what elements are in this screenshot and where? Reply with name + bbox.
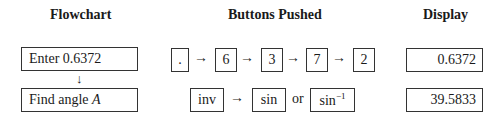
display-value-2: 39.5833 — [406, 88, 483, 112]
arrow-right-icon: → — [240, 50, 254, 66]
key-label: 6 — [223, 52, 230, 68]
key-6: 6 — [215, 48, 237, 72]
key-label: inv — [198, 92, 216, 108]
display-value-1: 0.6372 — [406, 48, 483, 72]
arrow-right-icon: → — [230, 90, 244, 106]
flow-step-label: Find angle A — [29, 92, 101, 108]
key-label: . — [178, 52, 182, 68]
key-arcsin: sin−1 — [310, 88, 355, 112]
key-7: 7 — [306, 48, 328, 72]
flow-step-label: Enter 0.6372 — [29, 51, 101, 67]
arrow-right-icon: → — [286, 50, 300, 66]
connector-or: or — [292, 91, 304, 107]
key-inv: inv — [190, 88, 224, 112]
display-text: 0.6372 — [438, 52, 477, 68]
flow-step-enter: Enter 0.6372 — [21, 47, 138, 71]
key-decimal-point: . — [171, 48, 189, 72]
key-label: 7 — [314, 52, 321, 68]
header-flowchart: Flowchart — [50, 7, 111, 23]
header-buttons-pushed: Buttons Pushed — [228, 7, 322, 23]
key-2: 2 — [353, 48, 375, 72]
key-label: sin−1 — [320, 91, 346, 109]
arrow-right-icon: → — [332, 50, 346, 66]
key-sin: sin — [252, 88, 286, 112]
key-3: 3 — [261, 48, 283, 72]
flow-step-find-angle: Find angle A — [21, 88, 138, 112]
variable-a: A — [92, 92, 101, 107]
arrow-right-icon: → — [194, 50, 208, 66]
key-label: sin — [261, 92, 277, 108]
arrow-down-icon: ↓ — [76, 70, 83, 88]
header-display: Display — [423, 7, 468, 23]
key-label: 2 — [361, 52, 368, 68]
key-label: 3 — [269, 52, 276, 68]
display-text: 39.5833 — [431, 92, 477, 108]
